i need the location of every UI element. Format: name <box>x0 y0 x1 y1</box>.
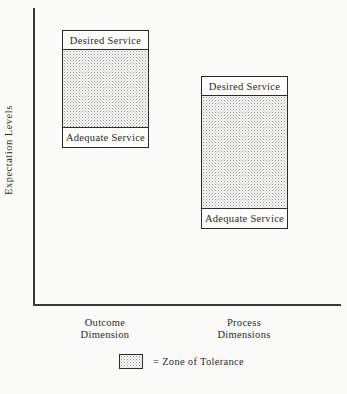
outcome-dimension-axis-label: Outcome Dimension <box>58 317 152 341</box>
process-dimensions-axis-label-line1: Process <box>196 317 292 329</box>
process-adequate-service-label: Adequate Service <box>202 208 287 228</box>
outcome-dimension-axis-label-line2: Dimension <box>58 329 152 341</box>
legend: = Zone of Tolerance <box>119 354 244 369</box>
y-axis-line <box>33 8 35 305</box>
process-service-box: Desired Service Adequate Service <box>201 76 288 229</box>
zone-of-tolerance-diagram: Expectation Levels Desired Service Adequ… <box>0 0 347 394</box>
y-axis-label: Expectation Levels <box>3 104 18 196</box>
outcome-zone-of-tolerance <box>63 50 148 127</box>
outcome-dimension-axis-label-line1: Outcome <box>58 317 152 329</box>
outcome-adequate-service-label: Adequate Service <box>63 127 148 147</box>
x-axis-line <box>33 304 341 306</box>
zone-of-tolerance-swatch <box>119 354 143 369</box>
process-dimensions-axis-label: Process Dimensions <box>196 317 292 341</box>
process-dimensions-axis-label-line2: Dimensions <box>196 329 292 341</box>
legend-label: = Zone of Tolerance <box>153 356 244 367</box>
process-desired-service-label: Desired Service <box>202 77 287 96</box>
process-zone-of-tolerance <box>202 96 287 208</box>
outcome-service-box: Desired Service Adequate Service <box>62 30 149 148</box>
outcome-desired-service-label: Desired Service <box>63 31 148 50</box>
